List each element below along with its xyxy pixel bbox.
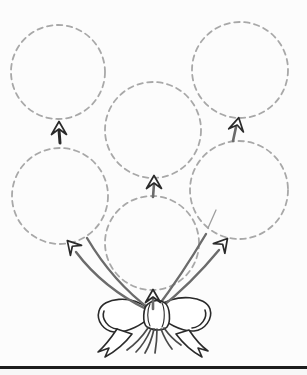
page-bottom-margin [0, 369, 307, 375]
balloon-bunch-drawing [0, 0, 307, 375]
worksheet-page: Balloon bunch tracing worksheet [0, 0, 307, 375]
balloon-top-middle-knot-stem [153, 184, 154, 197]
balloon-top-left-knot-stem [59, 130, 60, 143]
page-bottom-rule [0, 366, 307, 369]
